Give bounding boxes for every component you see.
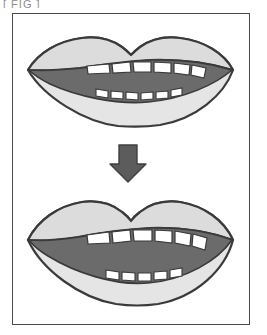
mouth-diagram-closed — [24, 29, 237, 129]
figure-panel — [12, 13, 250, 325]
arrow-down-icon — [110, 145, 146, 182]
mouth-diagram-open — [24, 192, 237, 308]
transition-arrow — [107, 142, 149, 184]
caption-fragment: [ FIG ] — [3, 0, 63, 8]
